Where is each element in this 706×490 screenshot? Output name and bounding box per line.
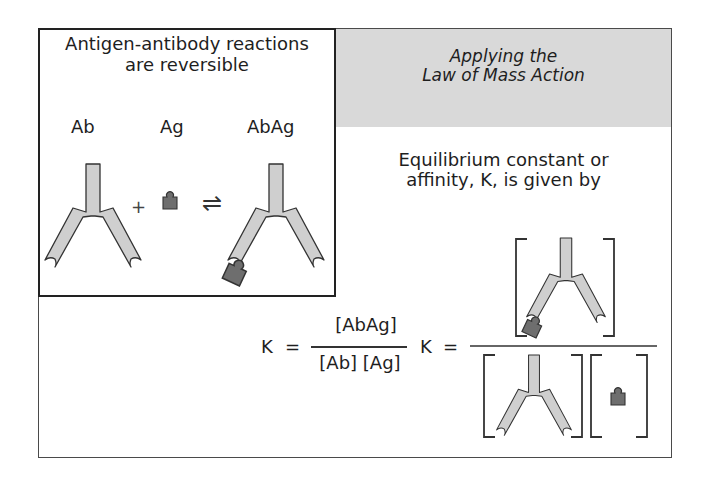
denominator-antibody-icon [497,355,572,435]
numerator-complex-icon [522,238,605,338]
diagram-artwork [0,0,706,490]
antibody-icon [45,164,141,267]
antigen-icon [163,192,177,209]
denominator-antigen-icon [611,388,625,405]
antibody-antigen-complex-icon [222,164,324,286]
